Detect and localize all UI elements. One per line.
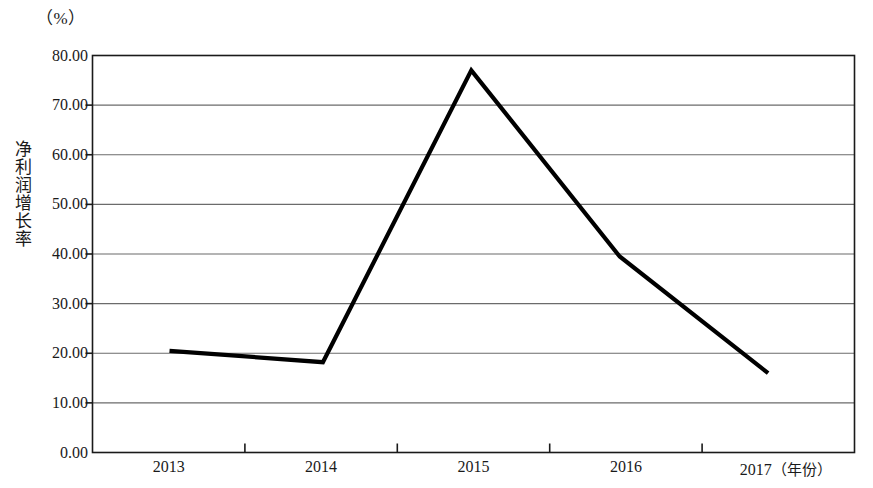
data-series-line — [170, 70, 769, 373]
chart-figure: （%） 净利润增长率 0.0010.0020.0030.0040.0050.00… — [0, 0, 873, 488]
gridlines — [93, 105, 855, 403]
axis-tick-marks — [86, 105, 703, 452]
plot-area — [0, 0, 873, 488]
